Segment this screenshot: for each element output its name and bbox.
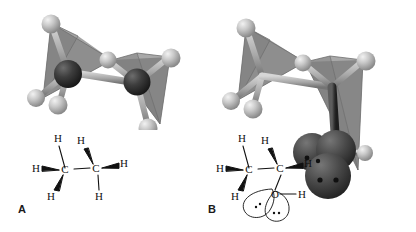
lewis-b-h-hydroxyl: H [298, 188, 306, 200]
lewis-b-h-right-top: H [261, 134, 269, 146]
lewis-a-carbon-left: C [61, 163, 68, 175]
lewis-structure-a: C C H H H H H H [22, 128, 162, 208]
model-a-ethane [0, 0, 208, 130]
panel-a: C C H H H H H H A [0, 0, 208, 232]
lewis-a-h-right-side: H [120, 157, 128, 169]
lewis-b-h-left-top: H [238, 132, 246, 144]
panel-label-b: B [208, 203, 216, 215]
lewis-a-h-left-bottom: H [47, 190, 55, 202]
lewis-b-carbon-left: C [245, 163, 252, 175]
lewis-b-carbon-right: C [276, 162, 283, 174]
lewis-a-h-right-top: H [77, 134, 85, 146]
lewis-a-h-right-bottom: H [95, 190, 103, 202]
lewis-b-h-left-bottom: H [231, 190, 239, 202]
figure-canvas: C C H H H H H H A [0, 0, 416, 232]
panel-b: C C H H H H H O H B [208, 0, 416, 232]
lewis-a-carbon-right: C [92, 162, 99, 174]
lewis-b-h-left-side: H [216, 162, 224, 174]
lewis-structure-b: C C H H H H H O H [206, 128, 336, 228]
lewis-a-h-left-side: H [32, 162, 40, 174]
lewis-a-h-left-top: H [54, 132, 62, 144]
lewis-b-h-right-side: H [304, 157, 312, 169]
panel-label-a: A [18, 203, 26, 215]
lewis-b-oxygen: O [271, 188, 279, 200]
